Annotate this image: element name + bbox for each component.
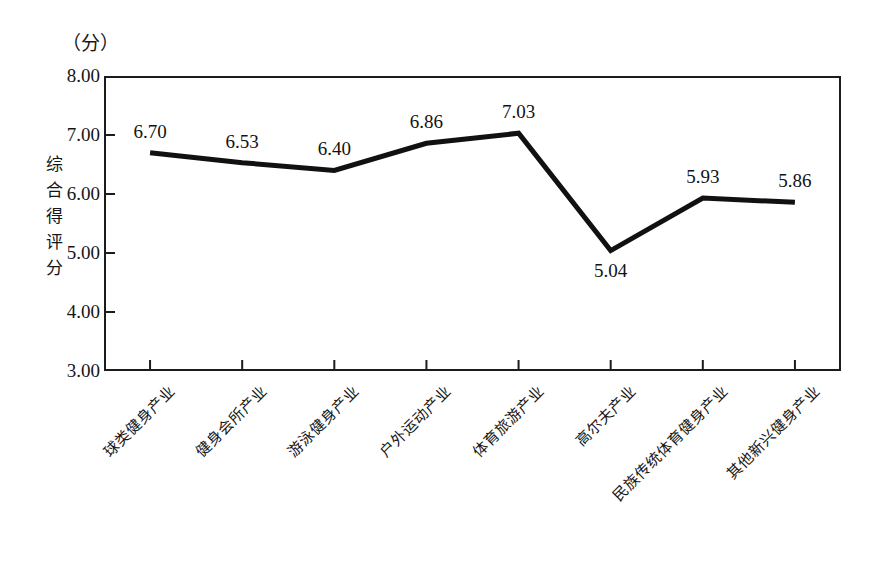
data-point-value-label: 6.70 [133,121,166,143]
data-point-value-label: 5.04 [594,260,627,282]
x-axis-category-label: 球类健身产业 [98,380,179,461]
x-axis-category-label: 户外运动产业 [375,380,456,461]
data-point-value-label: 5.93 [686,166,719,188]
y-axis-tick-label: 7.00 [38,124,100,146]
x-axis-category-label: 游泳健身产业 [283,380,364,461]
y-axis-unit-label: （分） [62,28,119,55]
x-axis-category-label: 健身会所产业 [190,380,271,461]
x-axis-category-label: 体育旅游产业 [467,380,548,461]
data-point-value-label: 6.86 [410,111,443,133]
y-axis-tick-label: 4.00 [38,301,100,323]
data-point-value-label: 7.03 [502,101,535,123]
data-point-value-label: 6.40 [318,138,351,160]
y-axis-tick-label: 8.00 [38,65,100,87]
x-axis-category-label: 高尔夫产业 [570,380,640,450]
plot-area [104,76,841,371]
x-axis-category-label: 其他新兴健身产业 [721,380,824,483]
chart-figure: （分） 综合得评分 8.007.006.005.004.003.00 6.706… [0,0,887,563]
y-axis-tick-label: 6.00 [38,183,100,205]
data-point-value-label: 5.86 [778,170,811,192]
data-point-value-label: 6.53 [226,131,259,153]
y-axis-tick-labels: 8.007.006.005.004.003.00 [36,76,100,371]
y-axis-tick-label: 3.00 [38,360,100,382]
y-axis-tick-label: 5.00 [38,242,100,264]
